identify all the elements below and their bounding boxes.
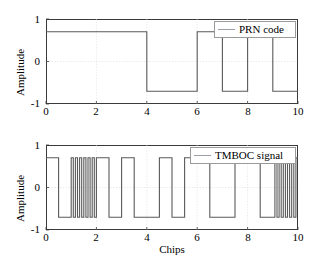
legend-label-tmboc-signal: TMBOC signal [215, 150, 283, 161]
panel-tmboc-signal: Amplitude 1 0 -1 0 2 4 6 8 10 Chips TMBO… [0, 126, 310, 260]
x-tick-bottom-0: 0 [36, 232, 56, 243]
x-tick-bottom-10: 10 [288, 232, 308, 243]
x-axis-label-chips: Chips [142, 243, 202, 255]
x-tick-bottom-4: 4 [137, 232, 157, 243]
x-tick-top-6: 6 [187, 106, 207, 117]
legend-line-sample-icon [194, 155, 211, 156]
x-tick-top-10: 10 [288, 106, 308, 117]
legend-prn-code: PRN code [214, 21, 296, 38]
x-tick-bottom-8: 8 [238, 232, 258, 243]
x-tick-bottom-6: 6 [187, 232, 207, 243]
panel-prn-code: Amplitude 1 0 -1 0 2 4 6 8 10 PRN code [0, 0, 310, 130]
x-tick-top-0: 0 [36, 106, 56, 117]
x-tick-top-4: 4 [137, 106, 157, 117]
x-tick-bottom-2: 2 [86, 232, 106, 243]
x-tick-top-8: 8 [238, 106, 258, 117]
legend-tmboc-signal: TMBOC signal [190, 147, 296, 164]
legend-label-prn-code: PRN code [239, 24, 284, 35]
figure-tmboc-prn: Amplitude 1 0 -1 0 2 4 6 8 10 PRN code A… [0, 0, 310, 260]
x-tick-top-2: 2 [86, 106, 106, 117]
legend-line-sample-icon [218, 29, 235, 30]
